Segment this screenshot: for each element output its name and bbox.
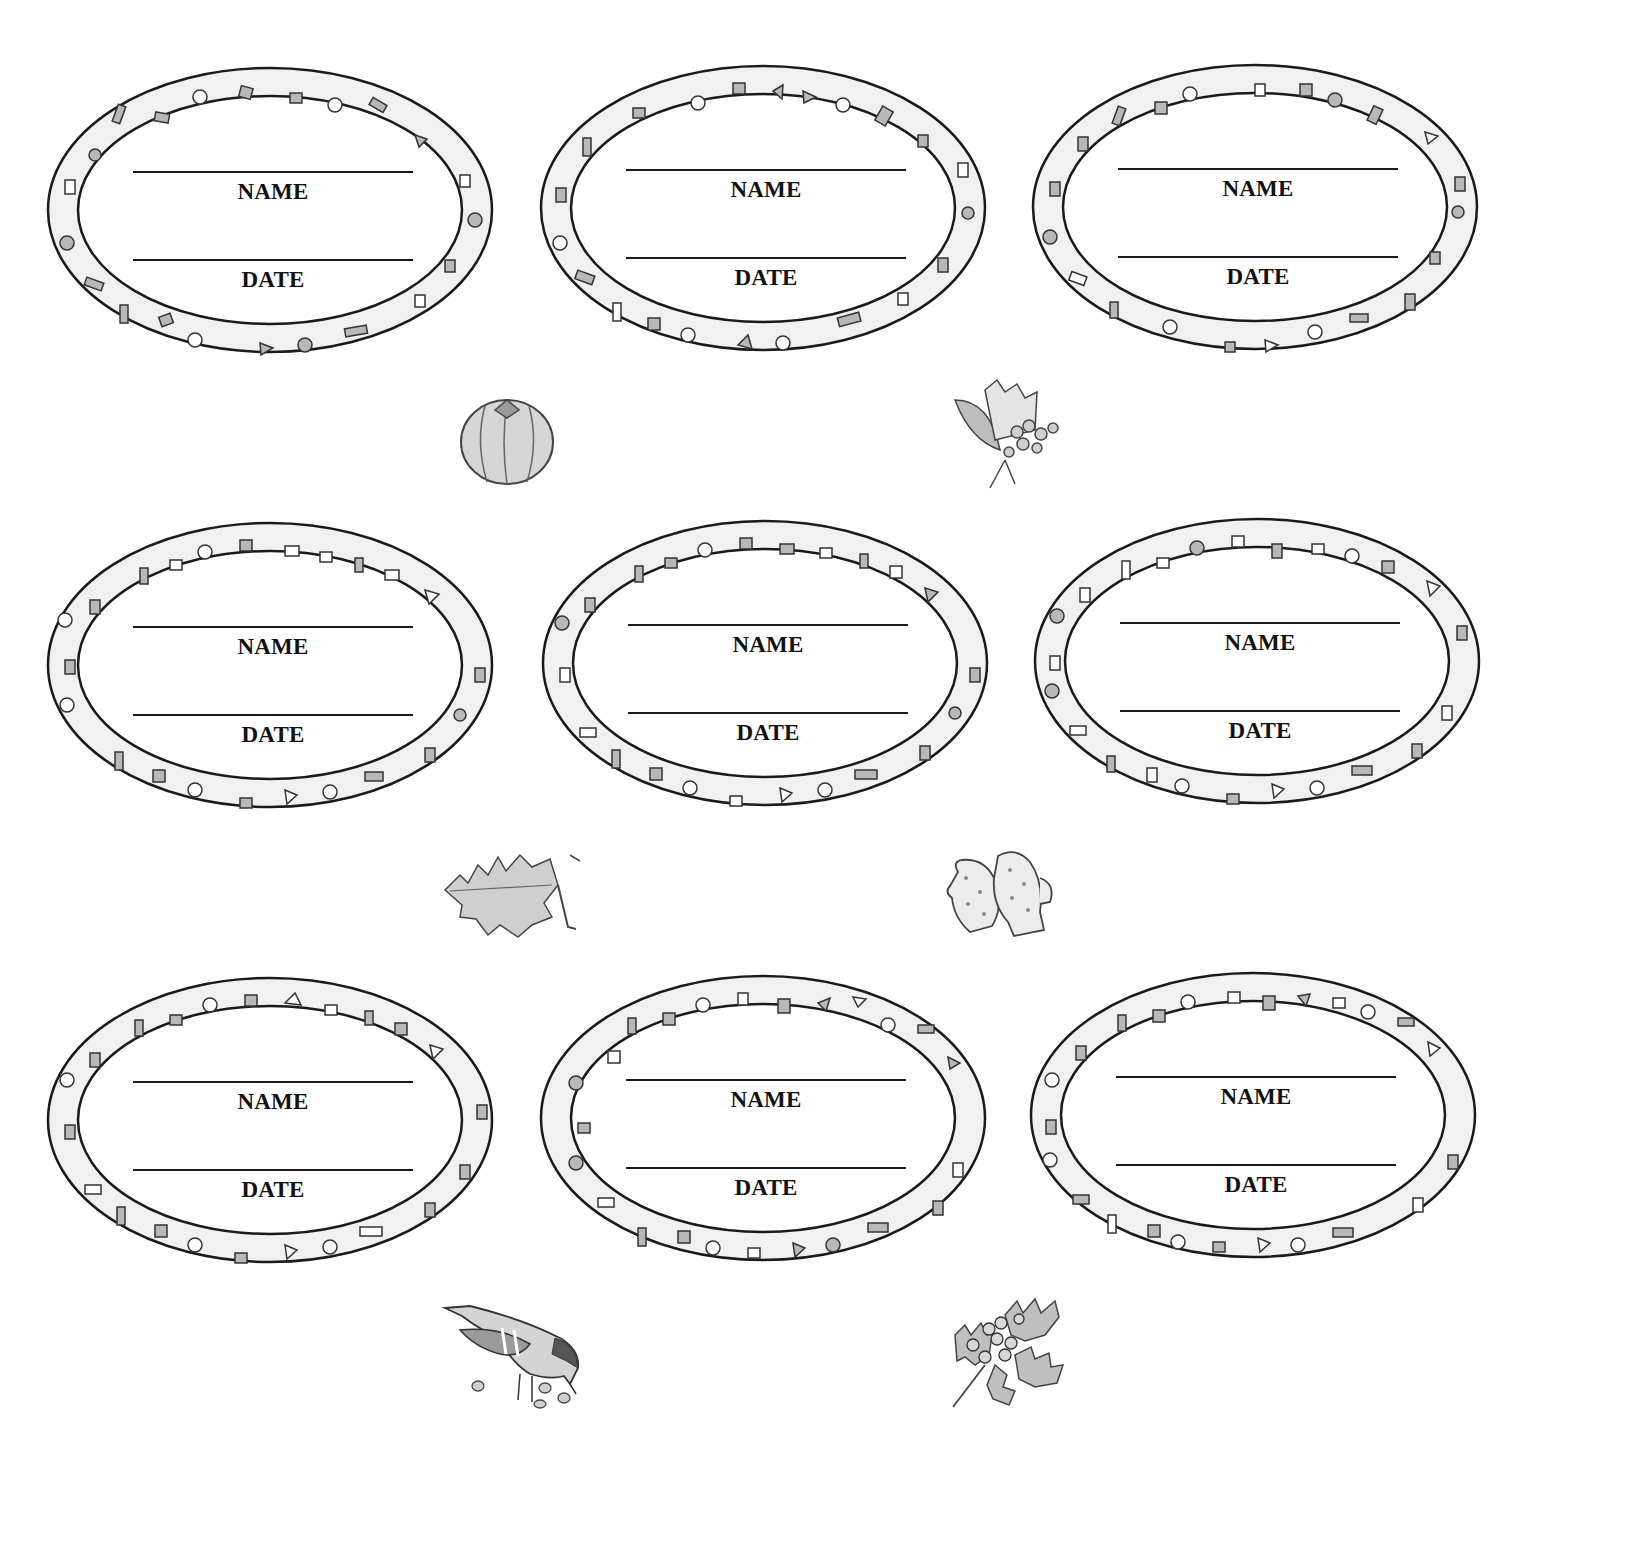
name-underline: [1118, 168, 1398, 170]
holly-illustration: [945, 1295, 1070, 1410]
name-field[interactable]: NAME: [628, 624, 908, 658]
name-field[interactable]: NAME: [1116, 1076, 1396, 1110]
date-field[interactable]: DATE: [628, 712, 908, 746]
name-field[interactable]: NAME: [133, 1081, 413, 1115]
date-underline: [1120, 710, 1400, 712]
date-field[interactable]: DATE: [1116, 1164, 1396, 1198]
bird-icon: [440, 1298, 590, 1408]
berries-illustration: [945, 380, 1070, 490]
oval-frame: [538, 63, 988, 353]
date-underline: [628, 712, 908, 714]
name-caption: NAME: [628, 632, 908, 658]
oval-frame: [45, 520, 495, 810]
oval-frame: [1030, 62, 1480, 352]
date-underline: [626, 257, 906, 259]
name-underline: [1120, 622, 1400, 624]
label-sheet: NAME DATE: [0, 0, 1637, 1547]
name-caption: NAME: [133, 1089, 413, 1115]
name-caption: NAME: [1120, 630, 1400, 656]
date-field[interactable]: DATE: [133, 714, 413, 748]
label-2: NAME DATE: [538, 63, 988, 353]
date-caption: DATE: [628, 720, 908, 746]
name-caption: NAME: [133, 634, 413, 660]
name-field[interactable]: NAME: [1118, 168, 1398, 202]
oval-frame: [45, 65, 495, 355]
date-caption: DATE: [1120, 718, 1400, 744]
holly-icon: [945, 1295, 1070, 1410]
label-5: NAME DATE: [540, 518, 990, 808]
date-caption: DATE: [626, 1175, 906, 1201]
label-6: NAME DATE: [1032, 516, 1482, 806]
date-field[interactable]: DATE: [626, 1167, 906, 1201]
name-underline: [628, 624, 908, 626]
date-caption: DATE: [133, 1177, 413, 1203]
date-underline: [133, 714, 413, 716]
oval-frame: [1032, 516, 1482, 806]
name-underline: [1116, 1076, 1396, 1078]
label-9: NAME DATE: [1028, 970, 1478, 1260]
oval-frame: [1028, 970, 1478, 1260]
name-field[interactable]: NAME: [1120, 622, 1400, 656]
name-field[interactable]: NAME: [626, 169, 906, 203]
name-underline: [626, 1079, 906, 1081]
label-1: NAME DATE: [45, 65, 495, 355]
label-4: NAME DATE: [45, 520, 495, 810]
date-field[interactable]: DATE: [133, 259, 413, 293]
oak-leaf-icon: [440, 845, 585, 945]
date-underline: [626, 1167, 906, 1169]
date-underline: [1116, 1164, 1396, 1166]
date-caption: DATE: [133, 267, 413, 293]
label-3: NAME DATE: [1030, 62, 1480, 352]
date-field[interactable]: DATE: [626, 257, 906, 291]
bird-illustration: [440, 1298, 590, 1408]
date-field[interactable]: DATE: [1120, 710, 1400, 744]
date-caption: DATE: [133, 722, 413, 748]
name-caption: NAME: [626, 1087, 906, 1113]
name-underline: [626, 169, 906, 171]
name-field[interactable]: NAME: [133, 171, 413, 205]
name-field[interactable]: NAME: [133, 626, 413, 660]
mittens-illustration: [940, 848, 1065, 943]
date-caption: DATE: [1116, 1172, 1396, 1198]
pumpkin-icon: [445, 390, 565, 490]
oval-frame: [540, 518, 990, 808]
name-caption: NAME: [1116, 1084, 1396, 1110]
date-caption: DATE: [626, 265, 906, 291]
date-field[interactable]: DATE: [133, 1169, 413, 1203]
name-caption: NAME: [1118, 176, 1398, 202]
name-caption: NAME: [133, 179, 413, 205]
label-7: NAME DATE: [45, 975, 495, 1265]
name-caption: NAME: [626, 177, 906, 203]
name-underline: [133, 1081, 413, 1083]
oak-leaf-illustration: [440, 845, 585, 945]
name-field[interactable]: NAME: [626, 1079, 906, 1113]
oval-frame: [45, 975, 495, 1265]
label-8: NAME DATE: [538, 973, 988, 1263]
pumpkin-illustration: [445, 390, 565, 490]
date-caption: DATE: [1118, 264, 1398, 290]
date-underline: [133, 1169, 413, 1171]
oval-frame: [538, 973, 988, 1263]
mittens-icon: [940, 848, 1065, 943]
date-underline: [1118, 256, 1398, 258]
date-field[interactable]: DATE: [1118, 256, 1398, 290]
date-underline: [133, 259, 413, 261]
name-underline: [133, 626, 413, 628]
name-underline: [133, 171, 413, 173]
autumn-berries-icon: [945, 380, 1070, 490]
